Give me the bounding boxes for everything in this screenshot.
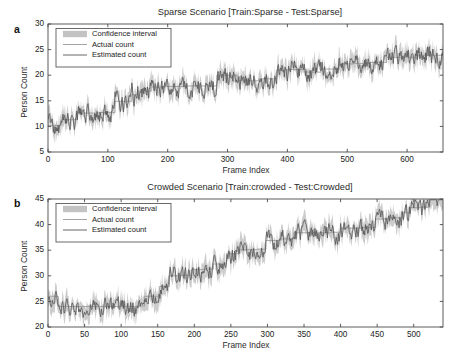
svg-text:30: 30 [35, 271, 45, 280]
svg-text:500: 500 [340, 155, 354, 164]
figure-container: a Sparse Scenario [Train:Sparse - Test:S… [0, 0, 460, 359]
svg-text:15: 15 [35, 96, 45, 105]
svg-text:50: 50 [80, 330, 90, 339]
svg-text:5: 5 [39, 147, 44, 156]
svg-text:30: 30 [35, 19, 45, 28]
svg-text:Actual count: Actual count [92, 215, 135, 224]
svg-text:40: 40 [35, 220, 45, 229]
svg-text:100: 100 [101, 155, 115, 164]
chart-panel-a: a Sparse Scenario [Train:Sparse - Test:S… [0, 0, 460, 180]
plot-area-b: 2025303540450501001502002503003504004505… [0, 180, 460, 359]
svg-text:200: 200 [161, 155, 175, 164]
svg-text:Confidence interval: Confidence interval [92, 204, 157, 213]
svg-text:400: 400 [334, 330, 348, 339]
svg-text:35: 35 [35, 245, 45, 254]
svg-text:25: 25 [35, 297, 45, 306]
chart-panel-b: b Crowded Scenario [Train:crowded - Test… [0, 180, 460, 359]
svg-text:200: 200 [187, 330, 201, 339]
svg-text:10: 10 [35, 122, 45, 131]
svg-text:250: 250 [224, 330, 238, 339]
svg-text:20: 20 [35, 322, 45, 331]
svg-text:Actual count: Actual count [92, 40, 135, 49]
svg-text:500: 500 [407, 330, 421, 339]
plot-area-a: 510152025300100200300400500600Confidence… [0, 0, 460, 180]
svg-text:Estimated count: Estimated count [92, 225, 147, 234]
svg-text:0: 0 [46, 155, 51, 164]
svg-text:600: 600 [400, 155, 414, 164]
svg-text:Confidence interval: Confidence interval [92, 29, 157, 38]
svg-text:450: 450 [370, 330, 384, 339]
svg-text:Estimated count: Estimated count [92, 50, 147, 59]
svg-text:45: 45 [35, 194, 45, 203]
svg-text:25: 25 [35, 45, 45, 54]
svg-text:0: 0 [46, 330, 51, 339]
svg-text:20: 20 [35, 70, 45, 79]
svg-text:100: 100 [114, 330, 128, 339]
svg-text:350: 350 [297, 330, 311, 339]
svg-text:300: 300 [221, 155, 235, 164]
svg-text:150: 150 [151, 330, 165, 339]
svg-text:300: 300 [261, 330, 275, 339]
svg-text:400: 400 [281, 155, 295, 164]
